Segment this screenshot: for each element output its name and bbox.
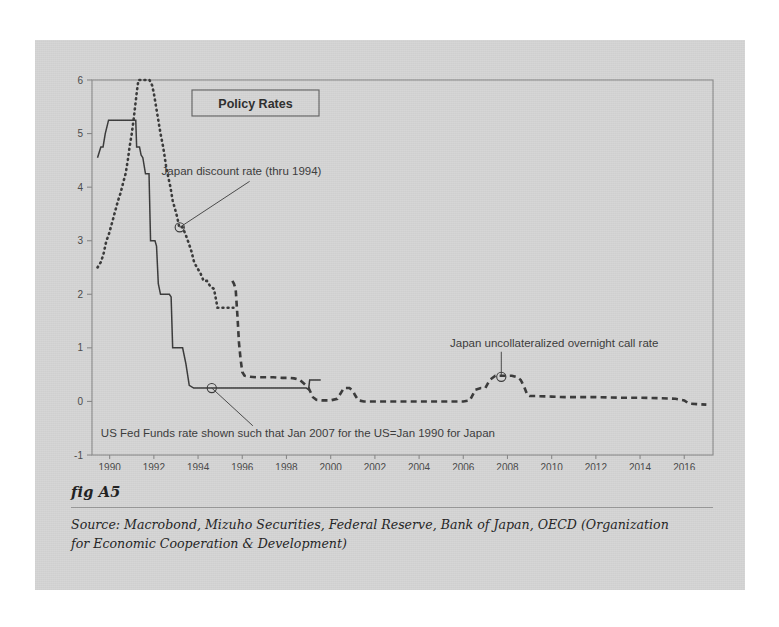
series-solid [98,120,321,389]
x-tick-label: 2012 [585,462,608,470]
chart-area: -10123456 199019921994199619982000200220… [35,40,745,470]
figure-panel: -10123456 199019921994199619982000200220… [35,40,745,590]
policy-rates-chart: -10123456 199019921994199619982000200220… [35,40,745,470]
series-dotted [98,80,234,308]
annotation-label-us-fed-funds-note: US Fed Funds rate shown such that Jan 20… [101,427,495,439]
y-tick-label: 1 [77,342,83,353]
x-tick-label: 2004 [408,462,431,470]
y-tick-label: 6 [77,75,83,86]
x-tick-label: 2014 [629,462,652,470]
annotation-leader-line [212,388,253,426]
y-tick-label: 0 [77,396,83,407]
x-tick-label: 2010 [541,462,564,470]
x-tick-label: 2006 [452,462,475,470]
y-axis: -10123456 [74,75,92,461]
plot-frame [92,80,713,455]
x-tick-label: 1994 [187,462,210,470]
x-tick-label: 2002 [364,462,387,470]
x-tick-label: 2000 [320,462,343,470]
annotation-label-japan-call-rate: Japan uncollateralized overnight call ra… [450,337,658,349]
x-tick-label: 2008 [496,462,519,470]
y-tick-label: 4 [77,182,83,193]
caption-block: fig A5 Source: Macrobond, Mizuho Securit… [71,483,711,554]
series-group [98,80,707,405]
x-tick-label: 2016 [673,462,696,470]
plot-border [92,80,713,455]
x-tick-label: 1990 [99,462,122,470]
annotation-label-japan-discount-rate: Japan discount rate (thru 1994) [162,165,322,177]
x-tick-label: 1992 [143,462,166,470]
y-tick-label: 2 [77,289,83,300]
y-tick-label: 3 [77,235,83,246]
chart-title-box: Policy Rates [192,90,319,116]
chart-title: Policy Rates [218,97,292,111]
caption-divider [71,507,713,508]
x-axis: 1990199219941996199820002002200420062008… [99,455,696,470]
y-tick-label: 5 [77,128,83,139]
figure-source: Source: Macrobond, Mizuho Securities, Fe… [71,516,686,554]
x-tick-label: 1998 [275,462,298,470]
figure-label: fig A5 [71,483,711,500]
x-tick-label: 1996 [231,462,254,470]
annotation-leader-line [180,181,250,227]
y-tick-label: -1 [74,450,83,461]
